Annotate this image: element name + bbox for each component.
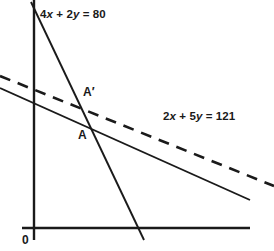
equation-steep-var-x: x [47,8,54,20]
equation-label-steep: 4x + 2y = 80 [40,9,106,21]
equation-shallow-var-y: y [196,110,203,122]
line-shallow-solid [0,88,250,200]
origin-label: 0 [22,234,29,246]
equation-shallow-equals: = [206,110,213,122]
equation-steep-rhs: 80 [93,8,106,20]
equation-steep-equals: = [83,8,90,20]
equation-shallow-plus: + [179,110,186,122]
equation-label-shallow: 2x + 5y = 121 [163,111,235,123]
line-2x-5y-121-dashed [0,76,274,186]
equation-shallow-rhs: 121 [216,110,236,122]
point-label-a: A [78,129,87,141]
line-graph-figure: 4x + 2y = 80 2x + 5y = 121 A′ A 0 [0,0,274,251]
plot-area [0,0,274,251]
equation-steep-var-y: y [73,8,80,20]
line-4x-2y-80 [31,2,144,240]
equation-steep-plus: + [56,8,63,20]
equation-shallow-var-x: x [170,110,177,122]
point-label-a-prime: A′ [83,86,95,98]
